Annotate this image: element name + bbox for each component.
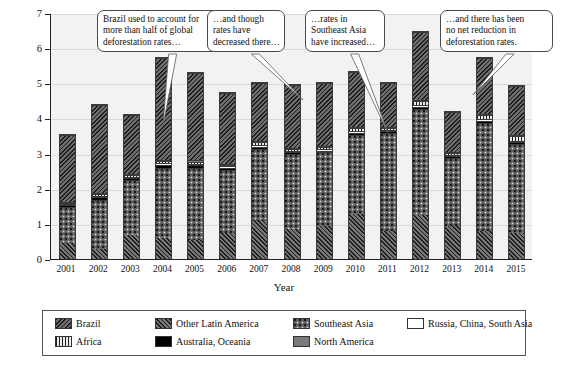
bar-2002 bbox=[91, 104, 108, 259]
bar-2006 bbox=[219, 92, 236, 259]
bar-segment-otherlatin bbox=[220, 233, 235, 259]
bar-segment-brazil bbox=[509, 86, 524, 135]
callout-line: have increased… bbox=[311, 37, 379, 48]
callout-line: …and there has been bbox=[446, 14, 547, 25]
x-tick-label-2015: 2015 bbox=[499, 264, 533, 274]
bar-segment-otherlatin bbox=[413, 215, 428, 259]
y-tick-label: 5 bbox=[20, 78, 42, 89]
callout-line: decreased there… bbox=[213, 37, 279, 48]
bar-segment-brazil bbox=[188, 73, 203, 160]
legend-item-brazil[interactable]: Brazil bbox=[55, 318, 100, 329]
callout-line: Southeast Asia bbox=[311, 25, 379, 36]
callout-line: Brazil used to account for bbox=[103, 14, 213, 25]
y-tick-mark bbox=[45, 260, 50, 261]
bar-2008 bbox=[284, 84, 301, 259]
y-tick-mark bbox=[45, 49, 50, 50]
bar-segment-seasia bbox=[156, 168, 171, 238]
bar-segment-brazil bbox=[252, 83, 267, 142]
bar-segment-otherlatin bbox=[92, 249, 107, 259]
bar-segment-brazil bbox=[317, 83, 332, 146]
bar-segment-seasia bbox=[220, 170, 235, 233]
bar-segment-brazil bbox=[349, 72, 364, 127]
bar-segment-brazil bbox=[413, 32, 428, 100]
bar-segment-otherlatin bbox=[188, 240, 203, 259]
callout-line: …rates in bbox=[311, 14, 379, 25]
legend-swatch-australia bbox=[155, 336, 172, 347]
bar-2009 bbox=[316, 82, 333, 259]
bar-segment-seasia bbox=[413, 109, 428, 216]
bar-segment-seasia bbox=[124, 180, 139, 234]
callout-southeast-asia: …rates inSoutheast Asiahave increased… bbox=[305, 10, 385, 52]
x-tick-label-2014: 2014 bbox=[467, 264, 501, 274]
legend-item-australia[interactable]: Australia, Oceania bbox=[155, 336, 250, 347]
legend-label: Other Latin America bbox=[176, 318, 259, 329]
bar-segment-seasia bbox=[188, 168, 203, 240]
bar-segment-seasia bbox=[349, 135, 364, 214]
legend-label: Australia, Oceania bbox=[176, 336, 250, 347]
bar-segment-seasia bbox=[60, 207, 75, 244]
bar-segment-brazil bbox=[445, 112, 460, 152]
legend-swatch-russia bbox=[407, 318, 424, 329]
y-tick-label: 4 bbox=[20, 113, 42, 124]
bar-segment-brazil bbox=[60, 135, 75, 201]
callout-line: more than half of global bbox=[103, 25, 213, 36]
y-tick-mark bbox=[45, 225, 50, 226]
bar-2015 bbox=[508, 85, 525, 259]
bar-2014 bbox=[476, 57, 493, 259]
bar-2003 bbox=[123, 114, 140, 259]
callout-line: …and though bbox=[213, 14, 279, 25]
bar-segment-otherlatin bbox=[445, 226, 460, 259]
y-tick-label: 7 bbox=[20, 8, 42, 19]
bar-2007 bbox=[251, 82, 268, 259]
x-tick-label-2006: 2006 bbox=[210, 264, 244, 274]
bar-segment-otherlatin bbox=[509, 233, 524, 259]
x-tick-label-2013: 2013 bbox=[435, 264, 469, 274]
bar-segment-otherlatin bbox=[381, 231, 396, 259]
legend-label: Russia, China, South Asia bbox=[428, 318, 532, 329]
x-tick-label-2007: 2007 bbox=[242, 264, 276, 274]
x-tick-label-2001: 2001 bbox=[49, 264, 83, 274]
y-tick-mark bbox=[45, 14, 50, 15]
x-tick-label-2004: 2004 bbox=[145, 264, 179, 274]
legend-item-otherlatin[interactable]: Other Latin America bbox=[155, 318, 259, 329]
bar-segment-otherlatin bbox=[60, 243, 75, 259]
bar-2012 bbox=[412, 31, 429, 259]
legend-item-northam[interactable]: North America bbox=[293, 336, 374, 347]
bar-segment-brazil bbox=[124, 115, 139, 174]
y-tick-label: 6 bbox=[20, 43, 42, 54]
x-tick-label-2002: 2002 bbox=[81, 264, 115, 274]
legend-label: Africa bbox=[76, 336, 102, 347]
bar-segment-seasia bbox=[92, 200, 107, 249]
bar-segment-brazil bbox=[477, 58, 492, 114]
legend-label: Southeast Asia bbox=[314, 318, 373, 329]
bar-segment-brazil bbox=[92, 105, 107, 192]
bar-2001 bbox=[59, 134, 76, 259]
legend-label: Brazil bbox=[76, 318, 100, 329]
x-tick-label-2012: 2012 bbox=[403, 264, 437, 274]
x-axis-title: Year bbox=[0, 281, 568, 293]
bar-segment-otherlatin bbox=[285, 229, 300, 259]
y-tick-mark bbox=[45, 190, 50, 191]
bar-2011 bbox=[380, 82, 397, 259]
legend-item-africa[interactable]: Africa bbox=[55, 336, 102, 347]
y-tick-label: 3 bbox=[20, 149, 42, 160]
legend-swatch-northam bbox=[293, 336, 310, 347]
callout-line: no net reduction in bbox=[446, 25, 547, 36]
bar-segment-seasia bbox=[381, 133, 396, 231]
y-tick-mark bbox=[45, 119, 50, 120]
bar-segment-seasia bbox=[477, 123, 492, 231]
bar-segment-otherlatin bbox=[317, 226, 332, 259]
bar-segment-brazil bbox=[156, 58, 171, 160]
bar-2010 bbox=[348, 71, 365, 259]
legend: BrazilOther Latin AmericaSoutheast AsiaR… bbox=[42, 310, 526, 356]
y-tick-label: 2 bbox=[20, 184, 42, 195]
legend-item-russia[interactable]: Russia, China, South Asia bbox=[407, 318, 532, 329]
legend-item-seasia[interactable]: Southeast Asia bbox=[293, 318, 373, 329]
bar-2005 bbox=[187, 72, 204, 259]
y-tick-mark bbox=[45, 155, 50, 156]
legend-swatch-brazil bbox=[55, 318, 72, 329]
y-tick-label: 1 bbox=[20, 219, 42, 230]
legend-label: North America bbox=[314, 336, 374, 347]
bar-segment-otherlatin bbox=[477, 231, 492, 259]
callout-line: deforestation rates. bbox=[446, 37, 547, 48]
